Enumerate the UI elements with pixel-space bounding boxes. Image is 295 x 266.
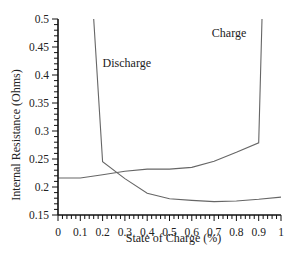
x-tick-label: 0.9: [252, 226, 267, 238]
y-tick-label: 0.4: [35, 69, 50, 81]
annotation-discharge: Discharge: [103, 56, 151, 70]
x-axis-title: State of Charge (%): [126, 231, 221, 245]
axes: [52, 19, 281, 221]
series-layer: [58, 19, 281, 202]
labels: 0.150.20.250.30.350.40.450.500.10.20.30.…: [9, 13, 284, 245]
y-tick-label: 0.45: [29, 41, 49, 53]
series-discharge-line: [94, 19, 281, 202]
x-tick-label: 0.8: [229, 226, 244, 238]
x-tick-label: 0: [55, 226, 61, 238]
line-chart: 0.150.20.250.30.350.40.450.500.10.20.30.…: [0, 0, 295, 266]
x-tick-label: 0.2: [95, 226, 110, 238]
annotation-charge: Charge: [212, 26, 246, 40]
y-tick-label: 0.25: [29, 153, 49, 165]
y-axis-title: Internal Resistance (Ohms): [9, 69, 23, 200]
x-tick-label: 0.1: [73, 226, 88, 238]
series-charge-line: [58, 19, 262, 178]
y-tick-label: 0.15: [29, 209, 49, 221]
y-tick-label: 0.5: [35, 13, 50, 25]
y-tick-label: 0.2: [35, 181, 50, 193]
x-tick-label: 1: [278, 226, 284, 238]
y-tick-label: 0.3: [35, 125, 50, 137]
y-tick-label: 0.35: [29, 97, 49, 109]
